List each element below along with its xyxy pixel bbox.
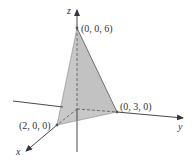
y-axis	[117, 112, 183, 118]
z-axis-label: z	[66, 5, 71, 16]
point-z-intercept	[76, 27, 79, 30]
y-axis-label: y	[177, 121, 183, 132]
label-y-intercept: (0, 3, 0)	[120, 101, 152, 113]
y-axis-back	[13, 101, 63, 107]
label-z-intercept: (0, 0, 6)	[81, 23, 113, 35]
label-x-intercept: (2, 0, 0)	[19, 120, 51, 132]
point-x-intercept	[56, 124, 59, 127]
point-y-intercept	[116, 111, 119, 114]
x-axis-label: x	[15, 146, 21, 157]
tetrahedron-diagram: z y x (0, 0, 6) (0, 3, 0) (2, 0, 0)	[0, 0, 195, 163]
diagram-canvas: z y x (0, 0, 6) (0, 3, 0) (2, 0, 0)	[0, 0, 195, 163]
